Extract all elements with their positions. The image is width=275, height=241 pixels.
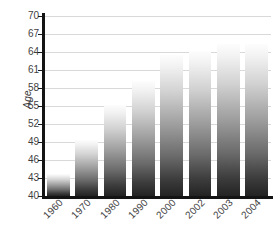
bar: [75, 140, 98, 196]
x-axis-tick-labels: 19601970198019902000200220032004: [44, 199, 275, 241]
bar: [132, 81, 155, 196]
x-axis-tick-label: 2000: [154, 197, 178, 221]
y-axis-tick-label: 52: [17, 119, 39, 129]
y-axis-tick-label: 55: [17, 101, 39, 111]
bar: [217, 44, 240, 196]
y-axis-tick-label: 46: [17, 155, 39, 165]
y-axis-tick-label: 61: [17, 65, 39, 75]
y-axis-tick-label: 43: [17, 173, 39, 183]
y-axis-tick-label: 67: [17, 29, 39, 39]
bar: [245, 44, 268, 196]
y-axis-tick-label: 70: [17, 11, 39, 21]
x-axis-tick-label: 1980: [98, 197, 122, 221]
bar-chart: Age 4043464952555861646770 1960197019801…: [0, 0, 275, 241]
x-axis-tick-label: 1990: [126, 197, 150, 221]
y-axis-tick-label: 49: [17, 137, 39, 147]
bar: [47, 174, 70, 196]
y-axis-tick-labels: 4043464952555861646770: [15, 0, 39, 241]
x-axis-tick-label: 1960: [41, 197, 65, 221]
y-axis-tick-label: 58: [17, 83, 39, 93]
x-axis-tick-label: 2004: [239, 197, 263, 221]
y-axis-tick-label: 64: [17, 47, 39, 57]
bar: [189, 51, 212, 196]
bar: [160, 55, 183, 196]
x-axis-tick-label: 2002: [183, 197, 207, 221]
x-axis-tick-label: 2003: [211, 197, 235, 221]
y-axis-tick-label: 40: [17, 191, 39, 201]
bar: [104, 105, 127, 196]
bars-layer: [44, 16, 271, 196]
x-axis-tick-label: 1970: [69, 197, 93, 221]
